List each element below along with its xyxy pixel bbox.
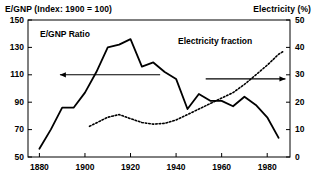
left-tick-label-5: 150: [0, 15, 24, 25]
plot-frame: [28, 20, 290, 157]
x-tick-label-1: 1900: [68, 162, 102, 172]
left-tick-label-0: 50: [0, 152, 24, 162]
x-tick-label-2: 1920: [114, 162, 148, 172]
right-axis-arrow-head: [279, 76, 285, 81]
data-series: [39, 39, 283, 149]
left-tick-label-3: 110: [0, 69, 24, 79]
series-line-1: [90, 52, 284, 127]
left-tick-label-2: 90: [0, 97, 24, 107]
series-line-0: [39, 39, 278, 149]
x-tick-label-0: 1880: [22, 162, 56, 172]
right-tick-label-3: 30: [295, 69, 317, 79]
axis-ticks: [28, 20, 290, 157]
right-tick-label-4: 40: [295, 42, 317, 52]
right-tick-label-2: 20: [295, 97, 317, 107]
right-tick-label-0: 0: [295, 152, 317, 162]
right-tick-label-1: 10: [295, 124, 317, 134]
left-axis-arrow-head: [60, 72, 66, 77]
left-tick-label-4: 130: [0, 42, 24, 52]
axis-frame: [28, 20, 290, 157]
chart-container: E/GNP (Index: 1900 = 100) Electricity (%…: [0, 0, 317, 184]
right-tick-label-5: 50: [295, 15, 317, 25]
plot-area: [0, 0, 317, 184]
x-tick-label-4: 1960: [205, 162, 239, 172]
left-tick-label-1: 70: [0, 124, 24, 134]
x-tick-label-5: 1980: [250, 162, 284, 172]
x-tick-label-3: 1940: [159, 162, 193, 172]
